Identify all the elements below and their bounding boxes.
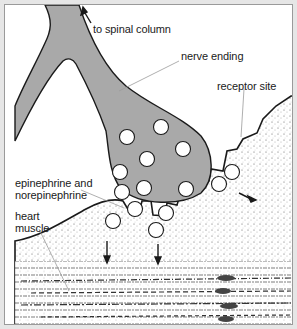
- label-to-spinal-column: to spinal column: [93, 23, 171, 35]
- label-epinephrine: epinephrine and: [15, 177, 92, 189]
- label-norepinephrine: norepinephrine: [15, 189, 87, 201]
- label-nerve-ending: nerve ending: [181, 50, 243, 62]
- synapse-illustration: [5, 5, 293, 325]
- label-muscle: muscle: [15, 222, 49, 234]
- label-heart: heart: [15, 210, 40, 222]
- label-receptor-site: receptor site: [217, 80, 276, 92]
- diagram-frame: to spinal column nerve ending receptor s…: [4, 4, 293, 325]
